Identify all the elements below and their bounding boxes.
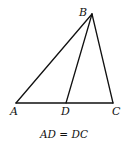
- segment-bd: [66, 14, 92, 103]
- segment-bc: [92, 14, 113, 103]
- triangle-diagram: B A D C AD = DC: [0, 0, 128, 145]
- segment-ab: [16, 14, 92, 103]
- label-d: D: [60, 105, 70, 118]
- label-b: B: [78, 6, 87, 19]
- label-a: A: [9, 105, 18, 118]
- caption: AD = DC: [39, 128, 88, 140]
- label-c: C: [112, 105, 121, 118]
